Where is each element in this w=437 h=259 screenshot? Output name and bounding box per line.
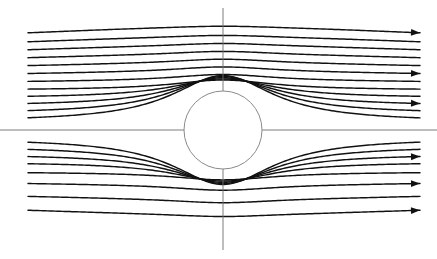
streamline-canvas (0, 0, 437, 259)
cylinder-outline (184, 91, 262, 169)
flow-figure (0, 0, 437, 259)
